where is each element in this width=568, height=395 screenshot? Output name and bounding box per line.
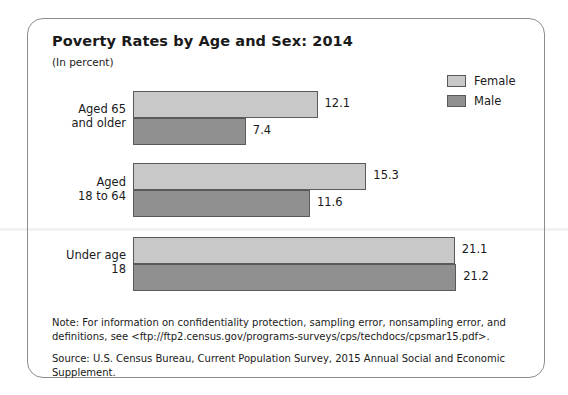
figure-source: Source: U.S. Census Bureau, Current Popu… <box>52 352 530 379</box>
legend-swatch-female <box>447 75 466 87</box>
legend-label-male: Male <box>474 94 501 108</box>
legend-item-female: Female <box>447 72 516 89</box>
chart-subtitle: (In percent) <box>52 56 114 68</box>
chart-legend: Female Male <box>447 72 516 112</box>
legend-swatch-male <box>447 95 466 107</box>
figure-note: Note: For information on confidentiality… <box>52 316 522 343</box>
legend-item-male: Male <box>447 92 516 109</box>
chart-title: Poverty Rates by Age and Sex: 2014 <box>52 33 353 49</box>
legend-label-female: Female <box>474 74 516 88</box>
